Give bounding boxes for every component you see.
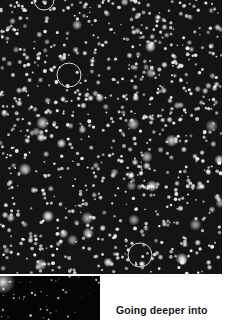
deep-field-graphic xyxy=(0,276,100,320)
star-cluster-image xyxy=(0,0,222,274)
deep-field-inset-image xyxy=(0,276,100,320)
marker-circle xyxy=(57,63,81,87)
star-field-graphic xyxy=(0,0,222,274)
figure-caption: Going deeper into xyxy=(116,304,208,316)
